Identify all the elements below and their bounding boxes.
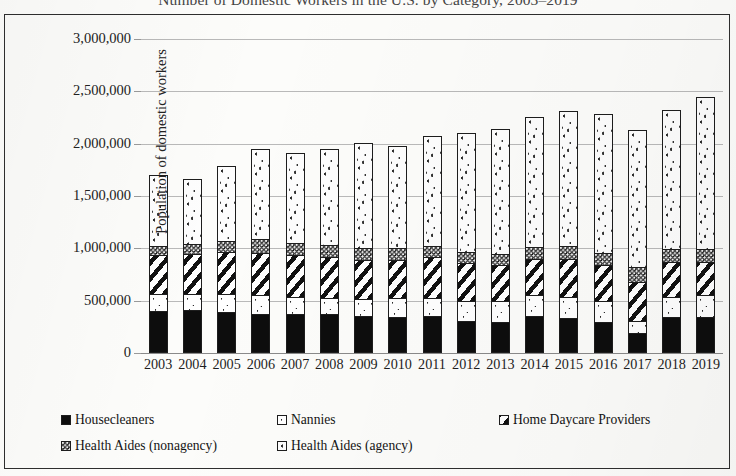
bar-segment[interactable] bbox=[183, 244, 202, 253]
bar-segment[interactable] bbox=[594, 301, 613, 322]
legend-item[interactable]: Housecleaners bbox=[61, 413, 154, 427]
bar-segment[interactable] bbox=[457, 301, 476, 321]
bar-segment[interactable] bbox=[354, 316, 373, 353]
bar-segment[interactable] bbox=[594, 253, 613, 266]
bar-segment[interactable] bbox=[491, 322, 510, 353]
bar-segment[interactable] bbox=[286, 297, 305, 315]
bar-segment[interactable] bbox=[525, 117, 544, 248]
bar-segment[interactable] bbox=[559, 297, 578, 319]
bar-segment[interactable] bbox=[457, 133, 476, 251]
bar-segment[interactable] bbox=[491, 301, 510, 322]
bar-segment[interactable] bbox=[251, 149, 270, 239]
bar-segment[interactable] bbox=[491, 254, 510, 266]
legend-item[interactable]: Health Aides (agency) bbox=[277, 439, 413, 453]
bar-segment[interactable] bbox=[696, 317, 715, 353]
bar-segment[interactable] bbox=[662, 317, 681, 353]
bar-group-2007[interactable] bbox=[286, 153, 305, 353]
bar-group-2008[interactable] bbox=[320, 149, 339, 353]
bar-segment[interactable] bbox=[217, 241, 236, 251]
bar-segment[interactable] bbox=[662, 297, 681, 318]
bar-group-2016[interactable] bbox=[594, 114, 613, 353]
bar-segment[interactable] bbox=[183, 254, 202, 295]
bar-segment[interactable] bbox=[217, 294, 236, 312]
bar-segment[interactable] bbox=[320, 257, 339, 298]
bar-segment[interactable] bbox=[354, 143, 373, 249]
bar-segment[interactable] bbox=[388, 248, 407, 260]
bar-segment[interactable] bbox=[149, 311, 168, 353]
bar-segment[interactable] bbox=[183, 310, 202, 353]
bar-segment[interactable] bbox=[628, 267, 647, 282]
bar-segment[interactable] bbox=[423, 298, 442, 317]
bar-segment[interactable] bbox=[457, 321, 476, 353]
bar-segment[interactable] bbox=[662, 249, 681, 262]
bar-group-2014[interactable] bbox=[525, 117, 544, 354]
bar-group-2019[interactable] bbox=[696, 97, 715, 353]
bar-group-2017[interactable] bbox=[628, 130, 647, 353]
bar-segment[interactable] bbox=[662, 110, 681, 249]
bar-segment[interactable] bbox=[354, 299, 373, 317]
bar-segment[interactable] bbox=[491, 265, 510, 301]
bar-segment[interactable] bbox=[559, 259, 578, 297]
bar-segment[interactable] bbox=[423, 246, 442, 256]
bar-segment[interactable] bbox=[457, 263, 476, 301]
bar-group-2009[interactable] bbox=[354, 143, 373, 353]
bar-segment[interactable] bbox=[594, 265, 613, 301]
legend-item[interactable]: Home Daycare Providers bbox=[499, 413, 650, 427]
bar-group-2006[interactable] bbox=[251, 149, 270, 353]
legend-item[interactable]: Nannies bbox=[277, 413, 336, 427]
bar-group-2011[interactable] bbox=[423, 136, 442, 353]
bar-segment[interactable] bbox=[388, 298, 407, 318]
bar-segment[interactable] bbox=[217, 252, 236, 295]
bar-segment[interactable] bbox=[457, 252, 476, 264]
bar-segment[interactable] bbox=[696, 249, 715, 262]
bar-segment[interactable] bbox=[423, 257, 442, 298]
bar-segment[interactable] bbox=[320, 298, 339, 315]
bar-segment[interactable] bbox=[251, 253, 270, 296]
bar-segment[interactable] bbox=[320, 149, 339, 245]
bar-segment[interactable] bbox=[662, 262, 681, 297]
bar-segment[interactable] bbox=[286, 314, 305, 353]
bar-segment[interactable] bbox=[251, 295, 270, 314]
bar-group-2004[interactable] bbox=[183, 179, 202, 353]
bar-segment[interactable] bbox=[320, 314, 339, 353]
bar-segment[interactable] bbox=[559, 111, 578, 246]
bar-segment[interactable] bbox=[696, 97, 715, 250]
bar-segment[interactable] bbox=[183, 294, 202, 310]
bar-segment[interactable] bbox=[251, 239, 270, 253]
bar-segment[interactable] bbox=[559, 246, 578, 259]
bar-segment[interactable] bbox=[423, 136, 442, 246]
bar-segment[interactable] bbox=[149, 294, 168, 311]
bar-segment[interactable] bbox=[696, 262, 715, 295]
bar-group-2013[interactable] bbox=[491, 129, 510, 353]
bar-group-2015[interactable] bbox=[559, 111, 578, 353]
bar-segment[interactable] bbox=[525, 316, 544, 353]
bar-group-2010[interactable] bbox=[388, 146, 407, 353]
bar-segment[interactable] bbox=[217, 166, 236, 241]
bar-segment[interactable] bbox=[354, 260, 373, 299]
bar-segment[interactable] bbox=[559, 318, 578, 353]
bar-segment[interactable] bbox=[320, 245, 339, 257]
bar-segment[interactable] bbox=[149, 255, 168, 295]
bar-segment[interactable] bbox=[388, 146, 407, 249]
bar-group-2018[interactable] bbox=[662, 110, 681, 353]
bar-segment[interactable] bbox=[525, 259, 544, 296]
bar-segment[interactable] bbox=[286, 255, 305, 297]
bar-segment[interactable] bbox=[628, 321, 647, 334]
bar-segment[interactable] bbox=[628, 130, 647, 267]
bar-segment[interactable] bbox=[423, 316, 442, 353]
bar-segment[interactable] bbox=[286, 243, 305, 255]
bar-segment[interactable] bbox=[491, 129, 510, 254]
bar-segment[interactable] bbox=[354, 248, 373, 260]
bar-segment[interactable] bbox=[217, 312, 236, 353]
bar-segment[interactable] bbox=[594, 322, 613, 353]
bar-segment[interactable] bbox=[388, 260, 407, 298]
bar-segment[interactable] bbox=[696, 295, 715, 317]
bar-segment[interactable] bbox=[525, 247, 544, 259]
bar-segment[interactable] bbox=[525, 295, 544, 316]
bar-group-2012[interactable] bbox=[457, 133, 476, 353]
bar-group-2005[interactable] bbox=[217, 166, 236, 353]
bar-segment[interactable] bbox=[388, 317, 407, 353]
bar-segment[interactable] bbox=[628, 282, 647, 321]
legend-item[interactable]: Health Aides (nonagency) bbox=[61, 439, 217, 453]
bar-segment[interactable] bbox=[628, 333, 647, 353]
